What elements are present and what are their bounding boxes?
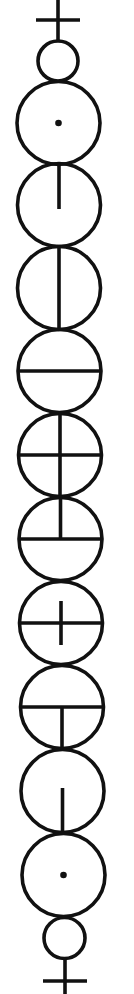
center-dot [55, 120, 62, 127]
symbol-circle-10 [22, 834, 105, 917]
bottom-terminal [43, 918, 87, 994]
symbol-circle-2 [18, 164, 101, 247]
symbol-circle-3 [18, 247, 101, 330]
symbol-circle-7 [20, 582, 103, 665]
symbol-circle-1 [17, 82, 100, 165]
bottom-small-circle [44, 918, 85, 959]
symbol-column-diagram [0, 0, 134, 994]
symbol-circle-6 [19, 498, 102, 581]
center-dot [60, 872, 67, 879]
symbol-circle-4 [18, 330, 101, 413]
symbol-circle-9 [21, 750, 104, 833]
diagram-svg [0, 0, 134, 994]
top-small-circle [38, 41, 78, 81]
symbol-circle-8 [21, 666, 104, 749]
top-terminal [36, 0, 80, 81]
symbol-circle-5 [19, 414, 102, 497]
